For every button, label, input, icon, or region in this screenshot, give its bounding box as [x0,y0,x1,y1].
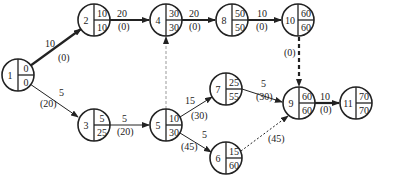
edge-1-2-duration: 10 [45,38,55,49]
node-id: 3 [84,120,89,131]
node-9: 96060 [283,87,315,119]
node-latest-time: 60 [301,22,311,33]
node-id: 11 [343,98,353,109]
node-latest-time: 60 [229,160,239,171]
node-2: 21010 [78,4,110,36]
node-5: 51030 [150,109,182,141]
edge-8-10-duration: 10 [257,8,267,19]
node-id: 4 [156,15,161,26]
node-earliest-time: 50 [235,8,245,19]
node-id: 6 [216,153,221,164]
node-latest-time: 55 [229,91,239,102]
node-latest-time: 10 [97,22,107,33]
network-diagram: 10 (0) 5 (20) 20 (0) 5 (20) 20 (0) 10 (0… [0,0,393,177]
node-id: 1 [8,70,13,81]
node-latest-time: 30 [169,127,179,138]
node-earliest-time: 70 [359,91,369,102]
node-latest-time: 0 [24,77,29,88]
edge-6-9-slack: (45) [268,133,285,145]
edge-4-8-slack: (0) [189,21,201,33]
node-8: 85050 [216,4,248,36]
node-id: 10 [285,15,295,26]
node-earliest-time: 10 [169,113,179,124]
node-latest-time: 25 [97,127,107,138]
edge-5-6-duration: 5 [202,129,207,140]
edge-5-7-duration: 15 [185,95,195,106]
edge-10-9-slack: (0) [284,47,296,59]
node-id: 5 [156,120,161,131]
node-7: 72555 [210,73,242,105]
node-earliest-time: 5 [100,113,105,124]
edge-9-11-slack: (0) [320,104,332,116]
node-latest-time: 50 [235,22,245,33]
edge-1-3-duration: 5 [59,87,64,98]
node-id: 9 [289,98,294,109]
node-4: 43030 [150,4,182,36]
edge-3-5-duration: 5 [122,113,127,124]
node-earliest-time: 60 [301,8,311,19]
node-earliest-time: 15 [229,146,239,157]
edge-7-9-slack: (30) [256,91,273,103]
node-3: 3525 [78,109,110,141]
edge-2-4-slack: (0) [118,21,130,33]
edge-5-6-slack: (45) [181,141,198,153]
node-earliest-time: 10 [97,8,107,19]
node-earliest-time: 25 [229,77,239,88]
edge-4-8-duration: 20 [189,8,199,19]
edge-5-7-slack: (30) [191,110,208,122]
edge-3-5-slack: (20) [117,126,134,138]
edge-7-9-duration: 5 [261,78,266,89]
edge-1-2-slack: (0) [58,52,70,64]
node-earliest-time: 0 [24,63,29,74]
edge-1-3-slack: (20) [40,98,57,110]
node-latest-time: 30 [169,22,179,33]
edge-1-2 [30,29,81,66]
node-id: 7 [216,84,221,95]
node-earliest-time: 30 [169,8,179,19]
edge-9-11-duration: 10 [320,91,330,102]
node-earliest-time: 60 [302,91,312,102]
node-latest-time: 70 [359,105,369,116]
node-6: 61560 [210,142,242,174]
node-1: 100 [2,59,34,91]
node-id: 2 [84,15,89,26]
edge-2-4-duration: 20 [117,8,127,19]
node-latest-time: 60 [302,105,312,116]
node-10: 106060 [282,4,314,36]
node-11: 117070 [340,87,372,119]
node-id: 8 [222,15,227,26]
edge-8-10-slack: (0) [256,21,268,33]
